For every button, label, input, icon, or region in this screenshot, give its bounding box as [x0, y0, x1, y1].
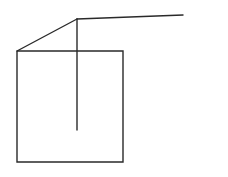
geometric-line-figure — [0, 0, 228, 177]
horizontal-ray — [77, 15, 183, 19]
line-drawing-canvas — [0, 0, 228, 177]
diagonal-line — [17, 19, 77, 51]
square-outline — [17, 51, 123, 162]
